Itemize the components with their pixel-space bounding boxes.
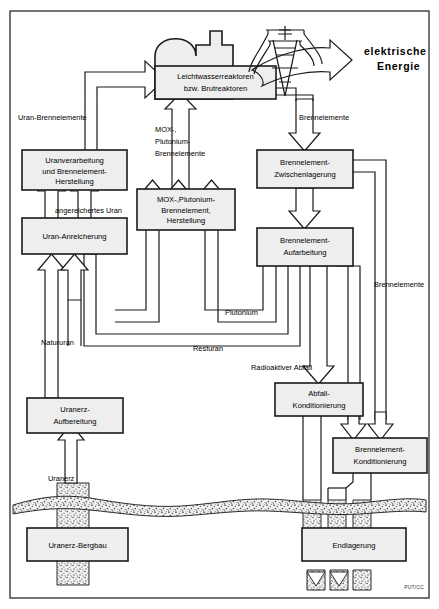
flowlabel-natururan: Natururan <box>41 338 74 347</box>
flowlabel-uran-brennelemente: Uran-Brennelemente <box>18 113 87 122</box>
reactor-box <box>155 66 276 99</box>
energy-label-line2: Energie <box>377 60 420 72</box>
box-abfall-line1: Abfall- <box>308 389 330 398</box>
box-aufbereitung-line2: Aufbereitung <box>53 417 96 426</box>
flowlabel-mox-line1: MOX-, <box>155 125 176 134</box>
diagram-canvas: elektrische Energie Uranverarbeitung und… <box>0 0 439 609</box>
box-abfall-konditionierung[interactable] <box>275 383 363 416</box>
credit-label: PUT/CC <box>404 584 424 590</box>
box-aufarbeitung-line1: Brennelement- <box>280 236 330 245</box>
box-mox-line2: Brennelement, <box>161 206 210 215</box>
box-reactor-line1: Leichtwasserreaktoren <box>177 72 253 81</box>
flowlabel-plutonium: Plutonium <box>225 308 258 317</box>
flowlabel-brennelemente-right: Brennelemente <box>374 280 424 289</box>
box-mox-line3: Herstellung <box>167 216 205 225</box>
box-aufbereitung-line1: Uranerz- <box>60 405 90 414</box>
box-aufarbeitung[interactable] <box>257 228 353 266</box>
energy-label-line1: elektrische <box>364 45 427 57</box>
box-uranverarbeitung-line2: und Brennelement- <box>42 167 107 176</box>
pipe-zwischenlager-to-aufarbeitung <box>289 188 320 229</box>
flowlabel-mox-line3: Brennelemente <box>155 149 205 158</box>
box-zwischenlagerung[interactable] <box>257 150 353 188</box>
box-bekond-line2: Konditionierung <box>354 457 407 466</box>
pipe-uran-brennelemente <box>85 61 165 151</box>
pipe-reactor-to-zwischenlager <box>289 99 320 151</box>
flowlabel-uranerz: Uranerz <box>48 474 75 483</box>
box-reactor-line2: bzw. Brutreaktoren <box>184 84 247 93</box>
line-right-be-1 <box>343 160 386 420</box>
box-zwischenlager-line1: Brennelement- <box>280 158 330 167</box>
box-endlagerung-label: Endlagerung <box>332 541 375 550</box>
box-anreicherung-label: Uran-Anreicherung <box>42 232 106 241</box>
box-bekond-line1: Brennelement- <box>355 445 405 454</box>
repository-shaft-c <box>353 570 371 590</box>
box-zwischenlager-line2: Zwischenlagerung <box>274 170 336 179</box>
flowlabel-resturan: Resturan <box>193 344 223 353</box>
box-aufarbeitung-line2: Aufarbeitung <box>283 248 326 257</box>
box-brennelement-konditionierung[interactable] <box>333 438 427 473</box>
box-abfall-line2: Konditionierung <box>293 401 346 410</box>
box-bergbau-label: Uranerz-Bergbau <box>48 541 106 550</box>
box-mox-line1: MOX-,Plutonium- <box>157 195 216 204</box>
pipe-natururan <box>38 254 65 398</box>
box-uranerz-aufbereitung[interactable] <box>27 398 123 433</box>
connector-layer <box>38 61 393 500</box>
arrow-right-be-into-bekond <box>368 412 393 440</box>
box-uranverarbeitung-line3: Herstellung <box>55 177 93 186</box>
flowlabel-radioaktiver-abfall: Radioaktiver Abfall <box>251 363 313 372</box>
flowlabel-angereichertes-uran: angereichertes Uran <box>55 206 122 215</box>
line-bekond-to-endlager-1 <box>346 470 353 500</box>
flowlabel-brennelemente-top: Brennelemente <box>299 113 349 122</box>
box-uranverarbeitung-line1: Uranverarbeitung <box>45 156 104 165</box>
flowlabel-mox-line2: Plutonium- <box>155 137 191 146</box>
